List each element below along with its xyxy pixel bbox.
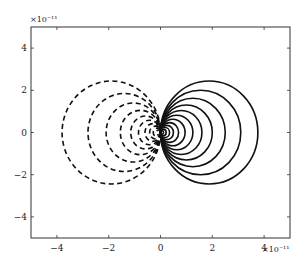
x-axis-multiplier: ×10⁻¹¹ [262,245,290,254]
x-tick-label: 0 [158,243,164,253]
y-axis-multiplier: ×10⁻¹¹ [30,15,58,24]
y-tick-label: 4 [21,43,27,53]
y-tick-label: 2 [21,85,27,95]
x-tick-label: −4 [50,243,64,253]
positive-contour [161,105,213,160]
positive-contour [161,90,241,174]
x-tick-label: 2 [209,243,215,253]
negative-contour [106,103,160,162]
negative-contour [156,130,160,135]
y-tick-label: −2 [14,170,27,180]
axis-ticks: −4−2024−4−2024 [14,27,290,253]
y-tick-label: 0 [21,128,27,138]
positive-contour [161,81,258,184]
dipole-contour-chart: −4−2024−4−2024 ×10⁻¹¹ ×10⁻¹¹ [0,0,305,268]
contour-lines [62,81,258,184]
x-tick-label: −2 [102,243,115,253]
y-tick-label: −4 [14,212,28,222]
